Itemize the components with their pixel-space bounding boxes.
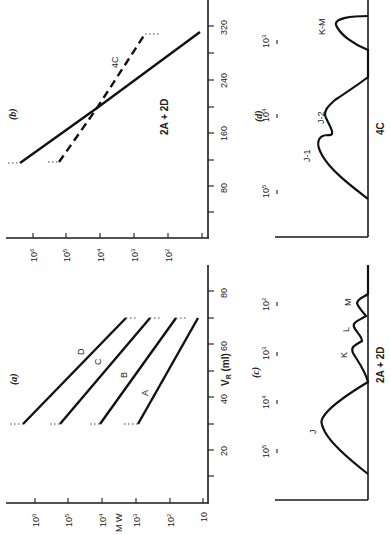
panel-b: 106 105 104 103 102 80 160 240 320 (b)	[6, 0, 229, 262]
b-label-4c: 4C	[110, 56, 120, 68]
c-elution-curve	[321, 265, 368, 474]
a-label-a: A	[140, 390, 150, 396]
svg-text:106: 106	[29, 248, 39, 262]
panel-a: 106 105 104 103 102 10 M W 20 40 60 80 V…	[6, 265, 232, 532]
svg-text:40: 40	[219, 394, 229, 404]
c-peak-m: M	[343, 299, 353, 307]
d-annotation: 4C	[375, 122, 386, 135]
d-peak-j2: J-2	[316, 111, 326, 124]
svg-text:10: 10	[199, 512, 209, 522]
svg-text:105: 105	[261, 184, 271, 198]
d-peak-j1: J-1	[302, 149, 312, 162]
d-panel-label: (d)	[253, 110, 265, 122]
c-annotation: 2A + 2D	[375, 346, 386, 383]
b-line-4c	[59, 34, 145, 162]
svg-text:160: 160	[219, 126, 229, 141]
c-peak-k: K	[339, 352, 349, 358]
svg-text:103: 103	[132, 513, 142, 527]
d-elution-curve	[318, 16, 368, 199]
svg-text:106: 106	[31, 513, 41, 527]
panel-d: 105 104 103 (d) J-1 J-2 K-M 4C	[253, 0, 386, 237]
b-vr-tick-labels: 80 160 240 320	[219, 20, 229, 193]
svg-text:103: 103	[261, 34, 271, 48]
b-line-2a2d	[20, 32, 200, 163]
b-panel-label: (b)	[7, 108, 19, 120]
a-x-axis-label: VR (ml)	[220, 353, 232, 386]
svg-text:103: 103	[261, 346, 271, 360]
b-annotation: 2A + 2D	[159, 98, 170, 135]
svg-text:60: 60	[219, 341, 229, 351]
d-peak-km: K-M	[317, 19, 327, 36]
a-line-a	[138, 318, 198, 424]
a-label-d: D	[76, 348, 86, 355]
figure-canvas: 106 105 104 103 102 80 160 240 320 (b)	[0, 0, 390, 535]
a-label-b: B	[119, 372, 129, 378]
b-mw-tick-labels: 106 105 104 103 102	[29, 248, 174, 262]
b-vr-ticks	[208, 26, 214, 212]
svg-text:105: 105	[64, 513, 74, 527]
c-peak-l: L	[341, 327, 351, 332]
svg-text:102: 102	[261, 297, 271, 311]
svg-text:240: 240	[219, 73, 229, 88]
c-peak-j: J	[308, 430, 318, 435]
svg-text:80: 80	[219, 183, 229, 193]
panel-c: 105 104 103 102 (c) J K L M 2A + 2D	[250, 265, 386, 500]
svg-text:105: 105	[62, 248, 72, 262]
c-panel-label: (c)	[250, 367, 262, 378]
svg-text:104: 104	[96, 248, 106, 262]
svg-text:102: 102	[164, 248, 174, 262]
svg-text:104: 104	[98, 513, 108, 527]
c-mw-tick-labels: 105 104 103 102	[261, 297, 271, 458]
svg-text:20: 20	[219, 446, 229, 456]
svg-text:105: 105	[261, 444, 271, 458]
a-label-c: C	[93, 358, 103, 365]
svg-text:320: 320	[219, 20, 229, 35]
svg-text:103: 103	[130, 248, 140, 262]
svg-text:104: 104	[261, 395, 271, 409]
a-y-axis-label: M W	[114, 513, 124, 532]
svg-text:80: 80	[219, 288, 229, 298]
a-vr-ticks	[208, 291, 214, 476]
svg-text:102: 102	[166, 513, 176, 527]
a-panel-label: (a)	[8, 373, 20, 385]
